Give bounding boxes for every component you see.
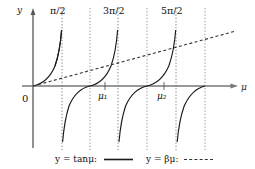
asymptote-label-3pi-over-2: 3π/2 [103,5,125,16]
tangent-branch-4 [177,86,205,142]
x-axis-label: μ [241,82,247,92]
asymptote-label-5pi-over-2: 5π/2 [161,5,183,16]
origin-label: 0 [22,93,28,104]
x-axis [22,83,238,88]
asymptote-group [62,8,205,150]
legend: y = tanμ: y = βμ: [54,154,214,164]
plot-canvas: y μ 0 π/2 3π/2 5π/2 μ₁ μ₂ y = tanμ: y = … [0,0,255,169]
y-axis [31,8,36,148]
x-axis-arrow [231,83,239,88]
y-axis-label: y [16,5,23,15]
intersection-label-mu2: μ₂ [157,91,167,101]
legend-label-beta-line: y = βμ: [145,154,178,164]
tangent-branch-1-upper [55,30,62,66]
y-axis-arrow [31,8,36,15]
intersection-label-mu1: μ₁ [98,91,107,101]
legend-label-tangent: y = tanμ: [54,154,97,164]
tangent-line-intersection-figure: y μ 0 π/2 3π/2 5π/2 μ₁ μ₂ y = tanμ: y = … [0,0,255,169]
beta-line [33,31,236,86]
asymptote-label-pi-over-2: π/2 [50,5,66,16]
